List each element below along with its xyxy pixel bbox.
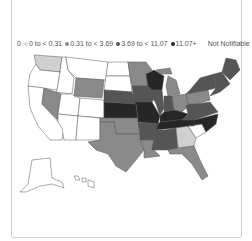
state-FL[interactable] — [168, 146, 208, 180]
state-KS[interactable] — [104, 102, 138, 118]
state-AK[interactable] — [20, 158, 64, 192]
state-HI[interactable] — [74, 176, 94, 188]
state-SD[interactable] — [104, 76, 132, 92]
state-AL[interactable] — [164, 128, 178, 150]
state-WY[interactable] — [74, 78, 104, 98]
state-OH[interactable] — [172, 94, 188, 112]
state-NE[interactable] — [104, 90, 136, 104]
state-CO[interactable] — [78, 98, 104, 118]
state-ND[interactable] — [106, 62, 130, 76]
us-choropleth-map — [0, 0, 252, 241]
state-NM[interactable] — [76, 116, 100, 140]
state-MO[interactable] — [134, 102, 160, 124]
state-UT[interactable] — [58, 94, 80, 116]
state-NY[interactable] — [186, 74, 216, 94]
